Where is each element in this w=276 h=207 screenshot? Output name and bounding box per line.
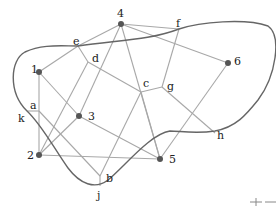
corner-mark — [250, 198, 276, 206]
node-g: g — [167, 80, 174, 93]
node-a: a — [30, 99, 37, 112]
node-dot-icon — [76, 113, 82, 119]
node-label: 2 — [27, 149, 34, 162]
node-label: 1 — [31, 63, 38, 76]
node-label: g — [167, 80, 174, 93]
edge-g-f — [162, 29, 179, 87]
node-j: j — [95, 189, 100, 202]
node-h: h — [217, 129, 224, 142]
node-dot-icon — [225, 60, 231, 66]
node-label: 4 — [117, 7, 124, 20]
node-label: h — [217, 129, 224, 142]
node-label: a — [30, 99, 37, 112]
node-dot-icon — [118, 21, 124, 27]
node-3: 3 — [76, 110, 95, 123]
node-label: 5 — [169, 153, 176, 166]
node-b: b — [106, 172, 113, 185]
edge-3-2 — [39, 116, 79, 155]
node-dot-icon — [157, 156, 163, 162]
node-5: 5 — [157, 153, 176, 166]
node-label: c — [143, 77, 149, 90]
node-label: k — [18, 112, 25, 125]
node-dot-icon — [36, 152, 42, 158]
edge-c-5 — [141, 92, 160, 159]
nodes-layer: 416325edfcghakbj — [18, 7, 241, 202]
node-2: 2 — [27, 149, 42, 162]
edge-d-2 — [39, 62, 88, 155]
edge-2-5 — [39, 155, 160, 159]
edge-g-h — [162, 87, 215, 133]
edge-e-1 — [39, 46, 78, 72]
node-label: d — [92, 52, 99, 65]
node-label: b — [106, 172, 113, 185]
edge-e-d — [78, 46, 88, 62]
node-6: 6 — [225, 55, 241, 68]
node-d: d — [92, 52, 99, 65]
node-1: 1 — [31, 63, 42, 76]
graph-diagram: 416325edfcghakbj — [0, 0, 276, 207]
node-4: 4 — [117, 7, 124, 27]
node-label: j — [95, 189, 100, 202]
edge-1-3 — [39, 72, 79, 116]
edge-b-c — [100, 92, 141, 176]
node-e: e — [73, 35, 80, 48]
edge-4-6 — [121, 24, 228, 63]
edge-6-5 — [160, 63, 228, 159]
node-label: 3 — [88, 110, 95, 123]
node-c: c — [143, 77, 149, 90]
node-label: 6 — [234, 55, 241, 68]
node-k: k — [18, 112, 25, 125]
node-label: e — [73, 35, 80, 48]
edge-4-3 — [79, 24, 121, 116]
edge-4-f — [121, 24, 179, 29]
